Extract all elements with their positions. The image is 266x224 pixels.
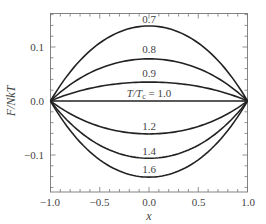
curve-label-1.0-suffix: = 1.0 [146, 87, 172, 99]
x-tick-label: 0.0 [142, 196, 156, 208]
curve-label-1.4: 1.4 [142, 145, 156, 157]
curve-label-1.0-prefix: T/T [127, 87, 143, 99]
free-energy-chart: 0.1 0.0 −0.1 −1.0 −0.5 0.0 0.5 1.0 x F/N… [0, 0, 266, 224]
curve-label-0.8: 0.8 [142, 43, 156, 55]
y-tick-label: 0.1 [30, 41, 44, 53]
x-tick-label: −1.0 [40, 196, 60, 208]
x-axis-label: x [145, 209, 152, 223]
curve-label-0.7: 0.7 [142, 13, 156, 25]
x-tick-label: 0.5 [192, 196, 206, 208]
y-tick-label: −0.1 [24, 149, 44, 161]
x-tick-label: 1.0 [241, 196, 255, 208]
curve-label-1.6: 1.6 [142, 163, 156, 175]
curve-label-1.2: 1.2 [142, 120, 156, 132]
x-tick-label: −0.5 [90, 196, 110, 208]
y-tick-label: 0.0 [30, 95, 44, 107]
curve-label-0.9: 0.9 [142, 67, 156, 79]
y-axis-label: F/NkT [4, 84, 18, 117]
curve-label-1.0: T/Tc = 1.0 [127, 87, 172, 101]
